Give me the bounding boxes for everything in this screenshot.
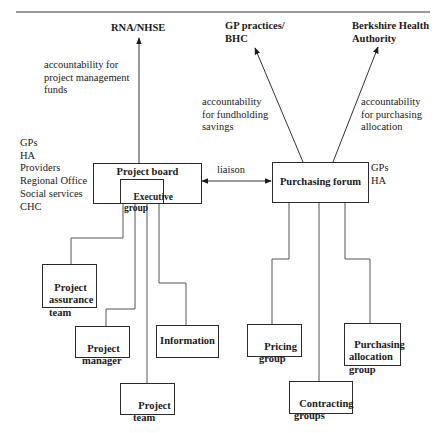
contracting-groups-node[interactable]: Contracting groups <box>289 381 353 414</box>
information-node[interactable]: Information <box>156 325 219 358</box>
purchasing-allocation-group-node[interactable]: Purchasing allocation group <box>344 323 401 366</box>
gp-practices-label: GP practices/ BHC <box>225 20 285 45</box>
project-manager-node[interactable]: Project manager <box>75 326 130 358</box>
project-board-node[interactable]: Project board Executive group <box>93 163 202 204</box>
pricing-group-node[interactable]: Pricing group <box>247 324 302 357</box>
liaison-label: liaison <box>217 164 245 177</box>
information-label: Information <box>160 335 215 348</box>
project-manager-label: Project manager <box>82 343 122 367</box>
project-assurance-team-node[interactable]: Project assurance team <box>42 264 97 308</box>
rna-nhse-label: RNA/NHSE <box>111 22 165 35</box>
project-board-label: Project board <box>94 166 201 179</box>
purchasing-forum-node[interactable]: Purchasing forum <box>272 162 369 203</box>
executive-group-node[interactable]: Executive group <box>120 179 164 204</box>
purchasing-forum-members: GPs HA <box>371 162 389 187</box>
project-team-node[interactable]: Project team <box>120 383 175 415</box>
berkshire-label: Berkshire Health Authority <box>352 20 429 45</box>
fundholding-label: accountability for fundholding savings <box>202 96 268 134</box>
purchasing-allocation-label: accountability for purchasing allocation <box>361 96 422 134</box>
purchasing-forum-label: Purchasing forum <box>280 176 361 189</box>
project-board-members: GPs HA Providers Regional Office Social … <box>20 137 87 213</box>
project-funds-label: accountability for project management fu… <box>44 59 129 97</box>
